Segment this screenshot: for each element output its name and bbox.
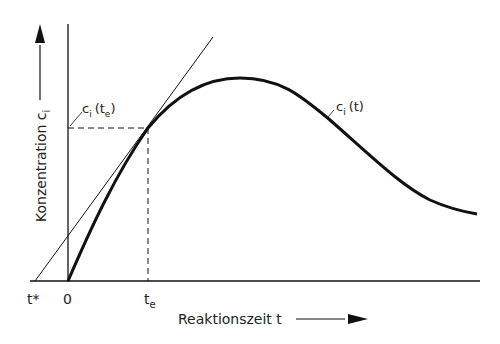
concentration-time-diagram: Konzentration ci ci(te) ci(t) t* 0 te Re… (0, 0, 500, 344)
x-axis-arrow-icon (296, 314, 368, 324)
tick-label-zero: 0 (63, 291, 72, 307)
y-axis-arrow-icon (35, 24, 45, 100)
tick-label-t-star: t* (27, 291, 40, 307)
curve-label: ci(t) (336, 99, 364, 117)
curve-label-leader (328, 110, 334, 117)
tick-label-te: te (144, 291, 156, 310)
point-label: ci(te) (82, 101, 115, 119)
x-axis-label: Reaktionszeit t (178, 311, 282, 327)
tangent-line (35, 37, 213, 281)
y-axis-label: Konzentration ci (33, 110, 52, 222)
diagram-canvas: Konzentration ci ci(te) ci(t) t* 0 te Re… (0, 0, 500, 344)
concentration-curve (68, 78, 477, 281)
point-label-leader (70, 112, 82, 126)
